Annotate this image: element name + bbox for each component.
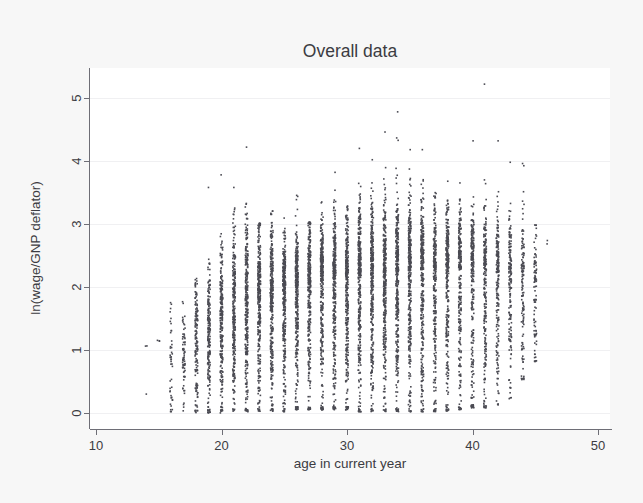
data-point — [332, 368, 334, 370]
data-point — [385, 408, 387, 410]
data-point — [384, 270, 386, 272]
data-point — [385, 341, 387, 343]
data-point — [447, 268, 449, 270]
data-point — [497, 281, 499, 283]
data-point — [508, 210, 510, 212]
data-point — [434, 326, 436, 328]
data-point — [471, 242, 473, 244]
data-point — [247, 344, 249, 346]
data-point — [471, 227, 473, 229]
data-point — [220, 328, 222, 330]
data-point — [459, 349, 461, 351]
data-point — [460, 292, 462, 294]
data-point — [447, 242, 449, 244]
data-point — [397, 208, 399, 210]
data-point — [422, 374, 424, 376]
data-point — [371, 249, 373, 251]
data-point — [259, 297, 261, 299]
data-point — [422, 268, 424, 270]
data-point — [233, 272, 235, 274]
data-point — [473, 382, 475, 384]
data-point — [207, 269, 209, 271]
data-point — [435, 273, 437, 275]
data-point — [308, 236, 310, 238]
data-point — [460, 259, 462, 261]
data-point — [448, 315, 450, 317]
data-point — [448, 408, 450, 410]
data-point — [410, 185, 412, 187]
data-point — [270, 360, 272, 362]
data-point — [371, 371, 373, 373]
data-point — [309, 362, 311, 364]
data-point — [182, 344, 184, 346]
data-point — [421, 280, 423, 282]
data-point — [347, 206, 349, 208]
data-point — [320, 259, 322, 261]
data-point — [208, 187, 210, 189]
data-point — [308, 281, 310, 283]
data-point — [258, 373, 260, 375]
data-point — [460, 386, 462, 388]
data-point — [458, 310, 460, 312]
data-point — [233, 402, 235, 404]
data-point — [447, 326, 449, 328]
data-point — [421, 362, 423, 364]
data-point — [233, 218, 235, 220]
data-point — [196, 387, 198, 389]
data-point — [259, 363, 261, 365]
data-point — [485, 241, 487, 243]
data-point — [322, 216, 324, 218]
data-point — [408, 295, 410, 297]
data-point — [434, 209, 436, 211]
data-point — [408, 211, 410, 213]
data-point — [498, 191, 500, 193]
data-point — [208, 401, 210, 403]
data-point — [169, 388, 171, 390]
data-point — [384, 345, 386, 347]
data-point — [247, 224, 249, 226]
data-point — [334, 223, 336, 225]
data-point — [221, 374, 223, 376]
data-point — [195, 308, 197, 310]
data-point — [471, 272, 473, 274]
data-point — [233, 352, 235, 354]
data-point — [221, 278, 223, 280]
data-point — [345, 254, 347, 256]
data-point — [182, 410, 184, 412]
data-point — [370, 251, 372, 253]
data-point — [371, 227, 373, 229]
data-point — [295, 301, 297, 303]
data-point — [422, 193, 424, 195]
data-point — [232, 266, 234, 268]
data-point — [384, 257, 386, 259]
data-point — [347, 343, 349, 345]
data-point — [221, 370, 223, 372]
data-point — [282, 403, 284, 405]
data-point — [508, 349, 510, 351]
data-point — [396, 387, 398, 389]
data-point — [408, 192, 410, 194]
data-point — [460, 275, 462, 277]
data-point — [485, 303, 487, 305]
data-point — [396, 280, 398, 282]
data-point — [370, 321, 372, 323]
data-point — [398, 350, 400, 352]
data-point — [257, 327, 259, 329]
data-point — [459, 246, 461, 248]
data-point — [172, 399, 174, 401]
data-point — [421, 411, 423, 413]
data-point — [396, 350, 398, 352]
data-point — [360, 336, 362, 338]
data-point — [446, 344, 448, 346]
data-point — [357, 277, 359, 279]
data-point — [359, 276, 361, 278]
data-point — [220, 322, 222, 324]
data-point — [484, 394, 486, 396]
data-point — [383, 262, 385, 264]
data-point — [498, 257, 500, 259]
data-point — [321, 214, 323, 216]
data-point — [257, 370, 259, 372]
data-point — [445, 253, 447, 255]
data-point — [322, 297, 324, 299]
data-point — [434, 308, 436, 310]
